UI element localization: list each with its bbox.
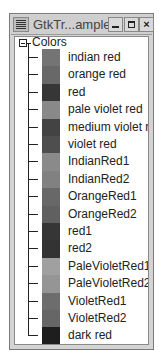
color-swatch	[42, 136, 60, 153]
maximize-icon	[128, 21, 135, 28]
tree-connector	[28, 127, 38, 128]
tree-view[interactable]: Colors indian redorange redredpale viole…	[14, 36, 149, 345]
tree-connector	[28, 144, 38, 145]
tree-item[interactable]: red1	[15, 223, 148, 240]
tree-connector	[28, 161, 38, 162]
tree-item-label: PaleVioletRed1	[68, 259, 149, 274]
tree-item[interactable]: orange red	[15, 66, 148, 83]
color-swatch	[42, 310, 60, 327]
menu-icon-line	[16, 28, 26, 29]
tree-item[interactable]: indian red	[15, 49, 148, 66]
tree-connector	[28, 196, 38, 197]
color-swatch	[42, 153, 60, 170]
tree-item-label: VioletRed2	[68, 311, 127, 326]
tree-item-label: red1	[68, 224, 92, 239]
app-window: GtkTr...ample × Colors indian redorange …	[9, 13, 154, 350]
color-swatch	[42, 188, 60, 205]
tree-item[interactable]: PaleVioletRed2	[15, 275, 148, 292]
tree-connector	[28, 74, 38, 75]
color-swatch	[42, 171, 60, 188]
color-swatch	[42, 84, 60, 101]
tree-item-label: medium violet red	[68, 120, 149, 135]
tree-item-label: dark red	[68, 328, 112, 343]
tree-connector	[28, 335, 38, 336]
tree-item[interactable]: red2	[15, 240, 148, 257]
tree-item-label: red	[68, 85, 85, 100]
color-swatch	[42, 293, 60, 310]
tree-item-label: OrangeRed2	[68, 207, 137, 222]
tree-item[interactable]: red	[15, 84, 148, 101]
window-menu-button[interactable]	[13, 17, 29, 32]
tree-item[interactable]: IndianRed1	[15, 153, 148, 170]
tree-item[interactable]: dark red	[15, 327, 148, 344]
color-swatch	[42, 206, 60, 223]
tree-item[interactable]: OrangeRed1	[15, 188, 148, 205]
tree-item-label: red2	[68, 241, 92, 256]
tree-connector	[28, 231, 38, 232]
tree-item-label: pale violet red	[68, 102, 143, 117]
maximize-button[interactable]	[124, 17, 139, 32]
collapse-icon[interactable]	[19, 39, 27, 47]
color-swatch	[42, 223, 60, 240]
color-swatch	[42, 101, 60, 118]
color-swatch	[42, 49, 60, 66]
tree-item-label: VioletRed1	[68, 294, 127, 309]
minimize-icon	[112, 26, 119, 28]
tree-item-label: orange red	[68, 67, 126, 82]
menu-icon	[16, 20, 26, 21]
tree-item-label: violet red	[68, 137, 117, 152]
tree-connector	[28, 283, 38, 284]
tree-connector	[28, 214, 38, 215]
close-icon: ×	[140, 18, 153, 31]
color-swatch	[42, 327, 60, 344]
tree-connector	[28, 248, 38, 249]
tree-item[interactable]: IndianRed2	[15, 171, 148, 188]
color-swatch	[42, 240, 60, 257]
menu-icon-line	[16, 22, 26, 23]
menu-icon-line	[16, 24, 26, 25]
tree-connector	[28, 266, 38, 267]
tree-connector	[28, 318, 38, 319]
tree-root-label: Colors	[32, 36, 67, 49]
tree-item[interactable]: VioletRed1	[15, 293, 148, 310]
window-title: GtkTr...ample	[33, 16, 111, 33]
tree-connector	[28, 109, 38, 110]
tree-item[interactable]: pale violet red	[15, 101, 148, 118]
minimize-button[interactable]	[108, 17, 123, 32]
tree-connector	[28, 57, 38, 58]
tree-item-label: IndianRed1	[68, 154, 129, 169]
color-swatch	[42, 119, 60, 136]
tree-connector	[28, 92, 38, 93]
color-swatch	[42, 275, 60, 292]
menu-icon-line	[16, 26, 26, 27]
color-swatch	[42, 258, 60, 275]
close-button[interactable]: ×	[139, 17, 154, 32]
tree-item-label: indian red	[68, 50, 121, 65]
title-bar[interactable]: GtkTr...ample ×	[11, 15, 152, 35]
tree-item[interactable]: PaleVioletRed1	[15, 258, 148, 275]
tree-item[interactable]: OrangeRed2	[15, 206, 148, 223]
tree-item-label: PaleVioletRed2	[68, 276, 149, 291]
tree-connector	[28, 301, 38, 302]
tree-item[interactable]: medium violet red	[15, 119, 148, 136]
color-swatch	[42, 66, 60, 83]
tree-item[interactable]: violet red	[15, 136, 148, 153]
tree-item-label: OrangeRed1	[68, 189, 137, 204]
tree-item-label: IndianRed2	[68, 172, 129, 187]
tree-item[interactable]: VioletRed2	[15, 310, 148, 327]
tree-connector	[28, 179, 38, 180]
